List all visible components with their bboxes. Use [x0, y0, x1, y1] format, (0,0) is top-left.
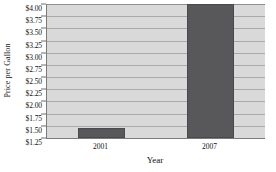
y-tick-mark: [41, 113, 46, 114]
y-tick-mark: [41, 4, 46, 5]
y-tick-mark: [41, 64, 46, 65]
y-tick-label: $1.75: [26, 113, 42, 122]
x-tick-label: 2007: [202, 142, 217, 151]
y-tick-label: $3.50: [26, 28, 42, 37]
y-tick-label: $4.00: [26, 4, 42, 13]
y-tick-mark: [41, 28, 46, 29]
y-tick-mark: [41, 16, 46, 17]
bar-chart-figure: Price per Gallon $4.00$3.75$3.50$3.25$3.…: [0, 0, 276, 172]
y-tick-label: $3.00: [26, 52, 42, 61]
y-tick-label: $2.50: [26, 77, 42, 86]
x-axis-tick-labels: 20012007: [46, 142, 264, 154]
y-tick-mark: [41, 138, 46, 139]
y-axis-title-text: Price per Gallon: [3, 43, 12, 97]
y-tick-label: $2.25: [26, 89, 42, 98]
y-tick-label: $1.50: [26, 125, 42, 134]
y-tick-mark: [41, 40, 46, 41]
plot-area: [46, 4, 265, 139]
y-tick-label: $2.00: [26, 101, 42, 110]
y-tick-mark: [41, 101, 46, 102]
y-tick-mark: [41, 125, 46, 126]
y-tick-label: $2.75: [26, 64, 42, 73]
x-axis-title: Year: [46, 155, 264, 165]
y-tick-label: $1.25: [26, 138, 42, 147]
x-tick-label: 2001: [93, 142, 108, 151]
y-tick-mark: [41, 52, 46, 53]
y-axis-tick-labels: $4.00$3.75$3.50$3.25$3.00$2.75$2.50$2.25…: [12, 4, 44, 138]
bar-2007: [187, 4, 234, 138]
y-tick-mark: [41, 89, 46, 90]
bar-2001: [78, 128, 125, 138]
y-tick-label: $3.75: [26, 16, 42, 25]
gridline: [47, 138, 265, 139]
y-tick-label: $3.25: [26, 40, 42, 49]
y-tick-mark: [41, 77, 46, 78]
